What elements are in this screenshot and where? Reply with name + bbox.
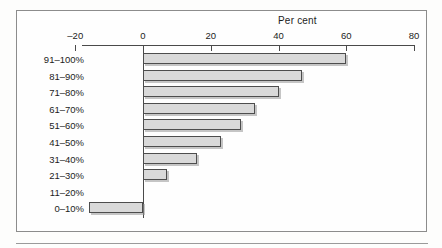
figure-bottom-rule bbox=[16, 243, 428, 244]
figure-container: Per cent –20020406080 91–100%81–90%71–80… bbox=[0, 0, 442, 248]
chart-frame bbox=[16, 10, 427, 232]
